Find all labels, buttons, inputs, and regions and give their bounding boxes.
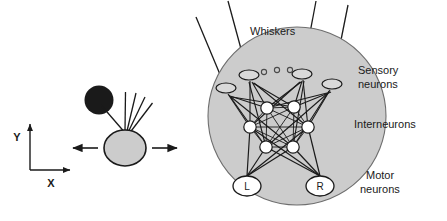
whiskers-label: Whiskers [250, 25, 296, 37]
circuit-body-disc [208, 27, 386, 205]
right-panel-circuit: L R Whiskers Sensory neurons Interneuron… [196, 1, 416, 205]
sensory-neuron-3 [292, 69, 312, 79]
figure-container: X Y [0, 0, 447, 221]
agent-whisker-1 [101, 105, 124, 131]
interneuron-6 [287, 141, 299, 153]
coordinate-axes: X Y [13, 124, 70, 189]
sensory-neurons-label-line1: Sensory [358, 64, 399, 76]
sensory-neuron-2 [239, 70, 259, 80]
motor-neuron-left-label: L [244, 181, 250, 192]
interneuron-4 [302, 121, 314, 133]
motor-neurons-label-line2: neurons [360, 183, 400, 195]
y-axis-label: Y [13, 131, 21, 143]
interneurons-label: Interneurons [354, 118, 416, 130]
motor-neurons-label-line1: Motor [366, 169, 394, 181]
obstacle-disc [85, 86, 114, 115]
left-panel-agent: X Y [13, 86, 177, 190]
diagram-canvas: X Y [0, 0, 447, 221]
interneuron-5 [260, 141, 272, 153]
x-axis-label: X [47, 177, 55, 189]
motor-neuron-right-label: R [316, 181, 323, 192]
sensory-neuron-1 [216, 83, 236, 93]
sensory-neuron-4 [322, 79, 342, 89]
sensory-neurons-label-line2: neurons [358, 78, 398, 90]
interneuron-1 [261, 102, 273, 114]
agent-body [104, 130, 146, 166]
agent-whisker-5 [130, 103, 153, 133]
agent-whisker-2 [125, 92, 126, 131]
interneuron-3 [244, 121, 256, 133]
interneuron-2 [288, 101, 300, 113]
